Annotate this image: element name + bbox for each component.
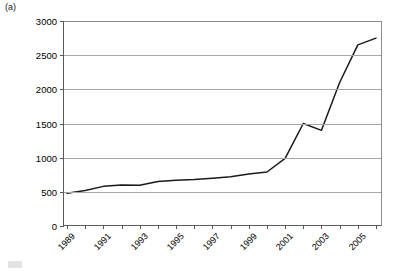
x-tick-1991 bbox=[103, 225, 104, 229]
x-tick-2005 bbox=[358, 225, 359, 229]
x-tick-label-2005: 2005 bbox=[347, 231, 368, 252]
x-tick-label-1999: 1999 bbox=[238, 231, 259, 252]
y-tick-2000 bbox=[60, 89, 64, 90]
x-tick-label-2003: 2003 bbox=[310, 231, 331, 252]
x-tick-1989 bbox=[67, 225, 68, 229]
x-tick-label-1991: 1991 bbox=[92, 231, 113, 252]
chart-figure: (a) 050010001500200025003000 19891991199… bbox=[0, 0, 401, 271]
gridline-1000 bbox=[64, 158, 381, 159]
y-tick-label-500: 500 bbox=[41, 186, 57, 197]
y-tick-2500 bbox=[60, 55, 64, 56]
gridline-500 bbox=[64, 192, 381, 193]
x-tick-2002 bbox=[303, 225, 304, 229]
y-tick-0 bbox=[60, 226, 64, 227]
x-tick-label-1989: 1989 bbox=[56, 231, 77, 252]
y-tick-1000 bbox=[60, 158, 64, 159]
x-tick-1998 bbox=[231, 225, 232, 229]
x-tick-1993 bbox=[140, 225, 141, 229]
x-tick-1997 bbox=[212, 225, 213, 229]
panel-label: (a) bbox=[5, 2, 16, 12]
y-tick-label-3000: 3000 bbox=[36, 16, 57, 27]
x-tick-label-2001: 2001 bbox=[274, 231, 295, 252]
x-tick-1994 bbox=[158, 225, 159, 229]
page-artifact bbox=[8, 261, 22, 268]
x-tick-1995 bbox=[176, 225, 177, 229]
gridline-1500 bbox=[64, 124, 381, 125]
x-axis-labels: 198919911993199519971999200120032005 bbox=[63, 231, 382, 271]
x-tick-label-1993: 1993 bbox=[129, 231, 150, 252]
x-tick-1996 bbox=[194, 225, 195, 229]
y-tick-label-1500: 1500 bbox=[36, 118, 57, 129]
x-tick-1999 bbox=[249, 225, 250, 229]
x-tick-label-1995: 1995 bbox=[165, 231, 186, 252]
plot-area bbox=[63, 21, 382, 226]
y-tick-500 bbox=[60, 192, 64, 193]
y-tick-label-2500: 2500 bbox=[36, 50, 57, 61]
gridline-2500 bbox=[64, 55, 381, 56]
line-series-1 bbox=[67, 38, 376, 193]
y-tick-label-2000: 2000 bbox=[36, 84, 57, 95]
x-tick-2001 bbox=[285, 225, 286, 229]
gridline-2000 bbox=[64, 89, 381, 90]
y-tick-1500 bbox=[60, 124, 64, 125]
y-tick-label-1000: 1000 bbox=[36, 152, 57, 163]
x-tick-2004 bbox=[340, 225, 341, 229]
x-tick-2003 bbox=[321, 225, 322, 229]
y-tick-label-0: 0 bbox=[52, 221, 57, 232]
gridline-3000 bbox=[64, 21, 381, 22]
y-tick-3000 bbox=[60, 21, 64, 22]
x-tick-1990 bbox=[85, 225, 86, 229]
x-tick-2000 bbox=[267, 225, 268, 229]
x-tick-1992 bbox=[122, 225, 123, 229]
x-tick-2006 bbox=[376, 225, 377, 229]
x-tick-label-1997: 1997 bbox=[201, 231, 222, 252]
y-axis-labels: 050010001500200025003000 bbox=[0, 21, 57, 226]
